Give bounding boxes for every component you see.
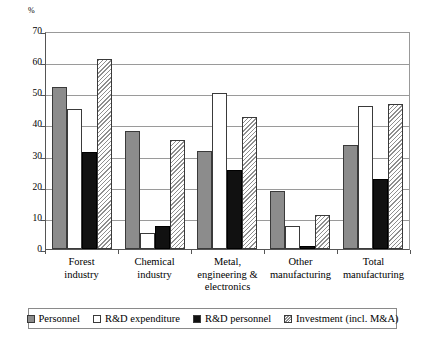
legend-item-label: R&D expenditure [105, 313, 180, 324]
y-axis-tick-label: 0 [18, 245, 42, 255]
x-axis-category-label: Totalmanufacturing [337, 256, 410, 294]
x-axis-category-label: Forestindustry [45, 256, 118, 294]
category-label-line: industry [45, 269, 118, 282]
bar-rdpers [300, 246, 315, 249]
bar-rdpers [227, 170, 242, 249]
bar-group [46, 33, 119, 249]
bar-rdpers [82, 152, 97, 249]
white-icon [93, 315, 101, 323]
legend-item-label: Investment (incl. M&A) [296, 313, 398, 324]
bar-invest [97, 59, 112, 249]
bar-group [191, 33, 264, 249]
bar-groups [46, 33, 409, 249]
bar-personnel [343, 145, 358, 249]
bar-personnel [52, 87, 67, 249]
category-label-line: industry [118, 269, 191, 282]
solid-black-icon [193, 315, 201, 323]
x-axis-category-labels: ForestindustryChemicalindustryMetal,engi… [45, 256, 410, 294]
category-label-line: Metal, [191, 256, 264, 269]
solid-grey-icon [27, 315, 35, 323]
legend-item[interactable]: Personnel [27, 313, 80, 324]
bar-invest [242, 117, 257, 249]
bar-group [336, 33, 409, 249]
y-axis-tick-label: 70 [18, 27, 42, 37]
x-axis-tick [118, 250, 119, 254]
bar-rdexp [285, 226, 300, 249]
y-axis-tick-label: 30 [18, 152, 42, 162]
y-axis-unit-label: % [28, 7, 35, 15]
category-label-line: Total [337, 256, 410, 269]
bar-rdexp [67, 109, 82, 249]
plot-area [45, 32, 410, 250]
bar-rdexp [212, 93, 227, 249]
bar-rdexp [358, 106, 373, 249]
x-axis-tick [264, 250, 265, 254]
legend-item[interactable]: R&D expenditure [93, 313, 180, 324]
x-axis-ticks [45, 250, 410, 255]
chart-legend: PersonnelR&D expenditureR&D personnelInv… [28, 308, 397, 329]
x-axis-category-label: Chemicalindustry [118, 256, 191, 294]
bar-rdexp [140, 233, 155, 249]
x-axis-tick [45, 250, 46, 254]
bar-personnel [270, 191, 285, 249]
bar-personnel [125, 131, 140, 249]
category-label-line: engineering & [191, 269, 264, 282]
x-axis-category-label: Metal,engineering &electronics [191, 256, 264, 294]
y-axis-tick-label: 50 [18, 89, 42, 99]
y-axis-tick-label: 60 [18, 58, 42, 68]
x-axis-tick [191, 250, 192, 254]
bar-rdpers [155, 226, 170, 249]
y-axis-tick-label: 20 [18, 183, 42, 193]
category-label-line: manufacturing [337, 269, 410, 282]
y-axis-tick-label: 10 [18, 214, 42, 224]
category-label-line: Chemical [118, 256, 191, 269]
bar-personnel [197, 151, 212, 249]
x-axis-category-label: Othermanufacturing [264, 256, 337, 294]
bar-group [264, 33, 337, 249]
legend-item-label: R&D personnel [205, 313, 271, 324]
hatched-icon [284, 315, 292, 323]
y-axis-tick-label: 40 [18, 120, 42, 130]
bar-invest [388, 104, 403, 249]
category-label-line: Forest [45, 256, 118, 269]
x-axis-tick [410, 250, 411, 254]
bar-chart: % 010203040506070 ForestindustryChemical… [0, 0, 425, 337]
bar-invest [170, 140, 185, 249]
legend-item[interactable]: Investment (incl. M&A) [284, 313, 398, 324]
bar-group [119, 33, 192, 249]
bar-invest [315, 215, 330, 249]
legend-item[interactable]: R&D personnel [193, 313, 271, 324]
category-label-line: manufacturing [264, 269, 337, 282]
legend-item-label: Personnel [39, 313, 80, 324]
category-label-line: electronics [191, 281, 264, 294]
category-label-line: Other [264, 256, 337, 269]
x-axis-tick [337, 250, 338, 254]
bar-rdpers [373, 179, 388, 249]
